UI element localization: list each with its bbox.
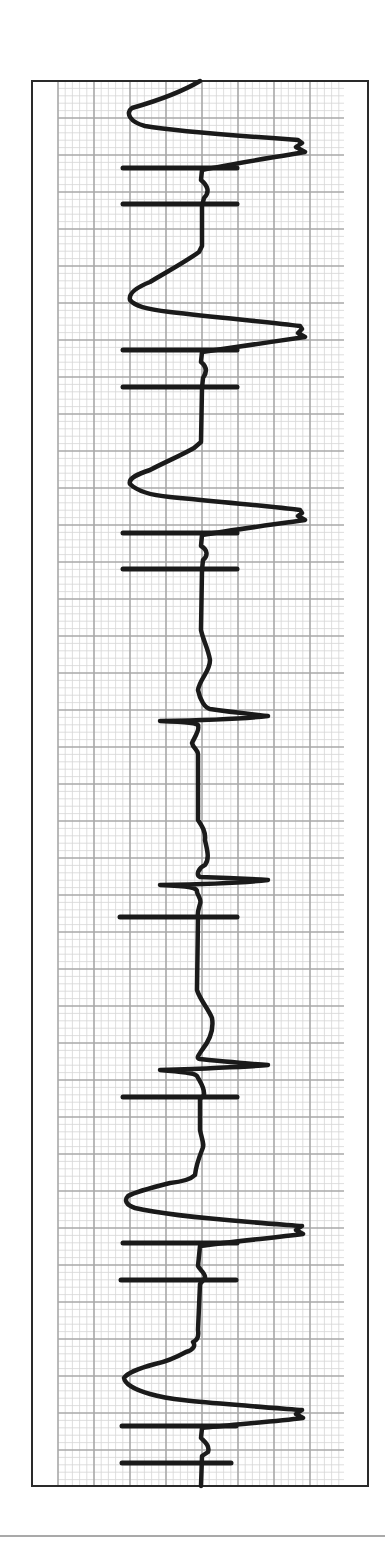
ecg-strip-canvas — [0, 0, 385, 1547]
